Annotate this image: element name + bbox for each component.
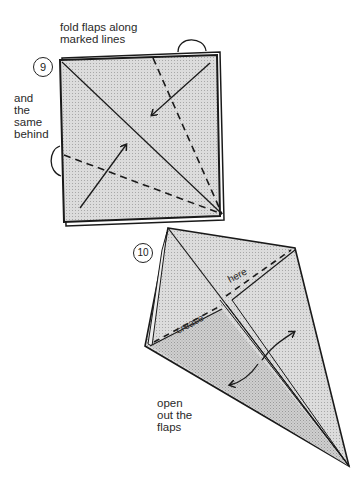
step-9-side-note: and the same behind bbox=[14, 92, 49, 140]
step-9-square bbox=[51, 40, 224, 226]
step-9-instruction: fold flaps along marked lines bbox=[60, 21, 137, 45]
step-10-number: 10 bbox=[133, 243, 153, 263]
turn-over-loop-icon bbox=[178, 40, 206, 52]
turn-over-loop-icon bbox=[51, 146, 61, 176]
step-9-number: 9 bbox=[33, 57, 53, 77]
step-10-instruction: open out the flaps bbox=[157, 397, 192, 433]
